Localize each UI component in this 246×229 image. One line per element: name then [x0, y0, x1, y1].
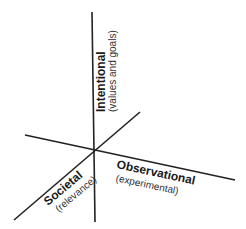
- intentional-axis-line: [92, 12, 95, 222]
- intentional-axis-label: Intentional: [94, 51, 108, 112]
- three-axis-diagram: Intentional (values and goals) Observati…: [0, 0, 246, 229]
- intentional-axis-sublabel: (values and goals): [107, 30, 118, 112]
